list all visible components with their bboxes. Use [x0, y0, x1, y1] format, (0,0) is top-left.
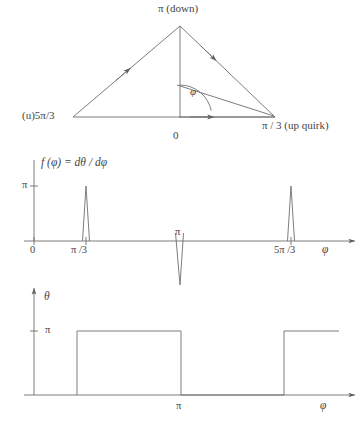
triangle-edge-right [180, 26, 275, 117]
derivative-plot [24, 160, 355, 285]
triangle-apex-label: π (down) [158, 3, 198, 14]
derivative-plot-xtick-0: 0 [30, 245, 35, 256]
phi-angle-label: φ [190, 86, 196, 97]
triangle-left-vertex-label: (u)5π/3 [22, 110, 54, 121]
derivative-plot-ytick-pi: π [22, 180, 27, 191]
theta-plot-xtick-pi: π [176, 401, 181, 412]
figure-canvas [0, 0, 364, 434]
theta-step-plot [24, 288, 355, 395]
triangle-origin-label: 0 [173, 130, 179, 141]
theta-plot-ytick-pi: π [45, 325, 50, 336]
derivative-plot-xtick-pi-3: π /3 [71, 245, 87, 256]
derivative-plot-title: f (φ) = dθ / dφ [41, 157, 107, 169]
derivative-spike-up-5pi-3 [288, 186, 295, 241]
quark-phase-triangle [73, 26, 275, 118]
derivative-plot-xlabel: φ [322, 244, 328, 256]
physics-figure: π (down) (u)5π/3 π / 3 (up quirk) 0 φ f … [0, 0, 364, 434]
theta-plot-ylabel: θ [44, 291, 50, 303]
triangle-right-vertex-label: π / 3 (up quirk) [262, 120, 329, 131]
derivative-plot-xtick-pi: π [175, 227, 180, 238]
derivative-spike-up-pi-3 [83, 186, 90, 241]
triangle-edge-right-arrow [201, 46, 214, 59]
triangle-edge-left-arrow [116, 70, 128, 80]
derivative-plot-xtick-5pi-3: 5π /3 [274, 245, 295, 256]
theta-plot-xlabel: φ [320, 400, 326, 412]
theta-step-trace [77, 331, 339, 395]
